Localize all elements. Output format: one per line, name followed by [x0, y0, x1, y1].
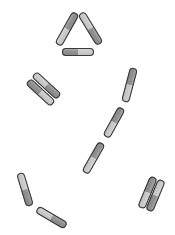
pair-arrangement-right	[137, 175, 165, 212]
rod-cell	[82, 141, 106, 175]
rod-groups-layer	[16, 11, 166, 230]
triangle-arrangement	[55, 11, 104, 56]
diagram-canvas	[0, 0, 175, 235]
rod-cell	[62, 48, 94, 56]
rod-cell	[55, 11, 80, 47]
chain-arrangement	[82, 67, 138, 175]
rod-cell	[102, 106, 125, 139]
l-shape-arrangement	[16, 172, 68, 230]
rod-cell	[121, 67, 138, 103]
rod-cell	[16, 172, 34, 207]
rod-cell	[35, 206, 68, 230]
pair-arrangement-left	[25, 71, 61, 107]
bacteria-diagram	[0, 0, 175, 235]
rod-cell	[78, 11, 104, 46]
